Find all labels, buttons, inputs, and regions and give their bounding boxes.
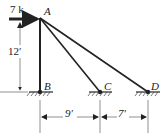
dim-bc-label: 9′	[65, 107, 74, 119]
load-label: 7 k	[10, 3, 24, 15]
bottom-dimensions: 9′ 7′	[40, 100, 148, 133]
node-label-a: A	[43, 5, 51, 17]
members	[40, 18, 148, 92]
member-ad	[40, 18, 148, 92]
node-label-b: B	[44, 80, 51, 92]
load-arrow: 7 k	[9, 3, 37, 19]
height-dimension: 12′	[0, 22, 28, 92]
node-label-c: C	[104, 80, 112, 92]
dim-cd-label: 7′	[118, 107, 127, 119]
height-label: 12′	[8, 45, 21, 57]
node-label-d: D	[150, 80, 159, 92]
truss-diagram: 7 k A B C D 12′ 9′	[0, 0, 164, 135]
